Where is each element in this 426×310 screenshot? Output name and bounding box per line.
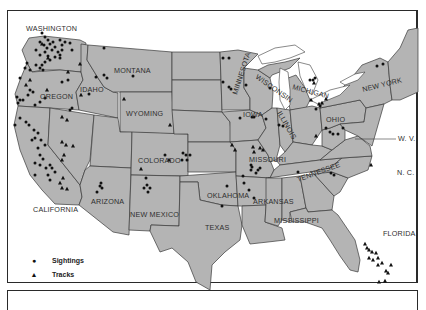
sighting-marker — [34, 137, 37, 140]
label-missouri: MISSOURI — [249, 155, 286, 164]
sighting-marker — [34, 174, 37, 177]
track-marker — [389, 263, 393, 267]
state-kansas — [188, 142, 236, 172]
sighting-marker — [44, 61, 47, 64]
track-marker — [376, 256, 380, 260]
sighting-marker — [39, 164, 42, 167]
sighting-marker — [44, 144, 47, 147]
sighting-marker — [16, 96, 19, 99]
sighting-marker — [181, 159, 184, 162]
sighting-marker — [27, 94, 30, 97]
sighting-marker — [221, 205, 224, 208]
sighting-marker — [226, 185, 229, 188]
label-california: CALIFORNIA — [33, 205, 78, 214]
sighting-marker — [259, 167, 262, 170]
sighting-marker — [34, 104, 37, 107]
track-marker — [363, 242, 367, 246]
sighting-marker — [222, 81, 225, 84]
sighting-marker — [29, 89, 32, 92]
sighting-marker — [242, 175, 245, 178]
sighting-marker — [37, 147, 40, 150]
sighting-marker — [145, 177, 148, 180]
sighting-marker — [342, 127, 345, 130]
sighting-marker — [57, 51, 60, 54]
sighting-marker — [149, 187, 152, 190]
sighting-marker — [103, 47, 106, 50]
state-south-dakota — [172, 80, 222, 112]
sighting-marker — [49, 164, 52, 167]
label-west-virginia: W. V. — [398, 134, 416, 143]
sighting-marker — [61, 44, 64, 47]
sighting-marker — [251, 166, 254, 169]
sighting-marker — [143, 187, 146, 190]
label-wyoming: WYOMING — [126, 109, 164, 118]
sighting-marker — [24, 67, 27, 70]
label-arkansas: ARKANSAS — [253, 197, 294, 206]
sighting-marker — [245, 84, 248, 87]
label-ohio: OHIO — [326, 115, 345, 124]
state-ohio — [290, 106, 322, 145]
label-oregon: OREGON — [40, 92, 73, 101]
sighting-marker — [35, 49, 38, 52]
track-marker — [383, 279, 387, 283]
sighting-marker — [49, 179, 52, 182]
sighting-marker — [250, 169, 253, 172]
sighting-marker — [59, 57, 62, 60]
sighting-marker — [40, 139, 43, 142]
sighting-marker — [185, 154, 188, 157]
label-colorado: COLORADO — [138, 156, 181, 165]
sighting-marker — [147, 191, 150, 194]
track-marker — [370, 250, 374, 254]
sighting-marker — [61, 81, 64, 84]
sighting-marker — [19, 117, 22, 120]
track-marker — [374, 251, 378, 255]
sighting-marker — [39, 67, 42, 70]
sighting-marker — [146, 184, 149, 187]
sighting-marker — [45, 167, 48, 170]
sighting-marker — [46, 47, 49, 50]
label-oklahoma: OKLAHOMA — [207, 191, 249, 200]
state-new-mexico — [129, 175, 180, 231]
sighting-marker — [71, 49, 74, 52]
sighting-marker — [315, 108, 318, 111]
sighting-marker — [96, 191, 99, 194]
sighting-marker — [25, 121, 28, 124]
label-new-mexico: NEW MEXICO — [130, 210, 179, 219]
track-marker — [380, 261, 384, 265]
sighting-marker — [42, 158, 45, 161]
states-layer — [14, 28, 418, 290]
sighting-marker — [31, 139, 34, 142]
sighting-marker — [41, 64, 44, 67]
sighting-marker — [51, 167, 54, 170]
sighting-marker — [19, 77, 22, 80]
sighting-marker — [239, 117, 242, 120]
sighting-marker — [95, 76, 98, 79]
sighting-marker — [182, 152, 185, 155]
sighting-marker — [332, 133, 335, 136]
sighting-marker — [337, 133, 340, 136]
sighting-marker — [297, 171, 300, 174]
sighting-marker — [44, 36, 47, 39]
sighting-marker — [243, 182, 246, 185]
sighting-marker — [278, 124, 281, 127]
label-arizona: ARIZONA — [91, 197, 124, 206]
sighting-marker — [26, 62, 29, 65]
sighting-marker — [222, 57, 225, 60]
sighting-marker — [54, 171, 57, 174]
sighting-marker — [29, 69, 32, 72]
sighting-marker — [69, 42, 72, 45]
sightings-legend-label: Sightings — [52, 257, 84, 264]
sighting-marker — [28, 124, 31, 127]
sighting-marker — [333, 174, 336, 177]
sightings-legend-icon: ● — [30, 257, 38, 264]
lake-superior — [258, 45, 305, 64]
sighting-marker — [52, 41, 55, 44]
sighting-marker — [329, 131, 332, 134]
sighting-marker — [22, 99, 25, 102]
label-texas: TEXAS — [205, 223, 230, 232]
label-washington: WASHINGTON — [26, 24, 77, 33]
sighting-marker — [101, 187, 104, 190]
sighting-marker — [228, 57, 231, 60]
sighting-marker — [37, 132, 40, 135]
